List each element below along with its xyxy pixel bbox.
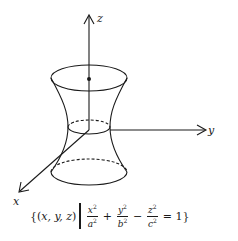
equals-one: = 1} [163, 210, 190, 223]
x-axis [20, 130, 89, 191]
y-axis-label: y [207, 124, 215, 137]
x-axis-label: x [13, 195, 20, 208]
fraction-y: y2 b2 [117, 204, 128, 229]
z-axis-point [87, 77, 91, 81]
bottom-ellipse-back [51, 159, 127, 172]
bottom-ellipse-front [51, 172, 127, 185]
such-that-bar [79, 203, 81, 229]
minus-operator: − [133, 210, 142, 223]
right-profile [110, 78, 127, 172]
z-axis-label: z [96, 12, 103, 25]
set-open: {( [30, 210, 41, 223]
left-profile [51, 78, 68, 172]
fraction-z: z2 c2 [147, 204, 158, 229]
set-variables: x, y, z [41, 210, 72, 223]
fraction-x: x2 a2 [87, 204, 98, 229]
set-definition-formula: {(x, y, z) x2 a2 + y2 b2 − z2 c2 = 1} [30, 199, 210, 233]
set-close-paren: ) [72, 210, 76, 223]
plus-operator: + [103, 210, 112, 223]
